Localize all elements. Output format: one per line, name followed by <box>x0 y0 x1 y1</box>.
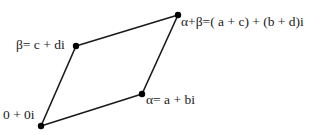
label-origin: 0 + 0i <box>3 108 35 122</box>
point-beta <box>73 43 79 49</box>
edge-alpha-sum <box>142 15 178 94</box>
edge-beta-origin <box>41 46 76 126</box>
label-beta: β= c + di <box>16 38 65 52</box>
label-alpha: α= a + bi <box>146 93 195 107</box>
point-origin <box>38 123 44 129</box>
label-alpha-plus-beta: α+β=( a + c) + (b + d)i <box>181 15 304 29</box>
edge-sum-beta <box>76 15 178 46</box>
point-alpha <box>139 91 145 97</box>
edge-origin-alpha <box>41 94 142 126</box>
